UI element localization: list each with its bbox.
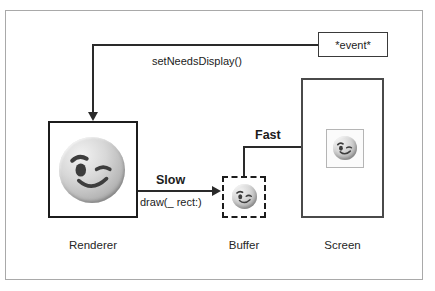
node-event: *event* (318, 32, 388, 57)
edge-renderer-to-buffer-line (138, 190, 214, 192)
edge-renderer-to-buffer-arrowhead (212, 186, 221, 196)
caption-screen: Screen (301, 239, 384, 251)
node-event-label: *event* (335, 39, 370, 51)
winking-face-emoji-buffer (232, 184, 257, 209)
winking-face-emoji-renderer (59, 137, 125, 203)
winking-face-emoji-screen (333, 136, 357, 160)
edge-event-to-renderer-vertical (92, 44, 94, 113)
edge-event-to-renderer-horizontal (92, 44, 318, 46)
caption-buffer: Buffer (214, 239, 274, 251)
edge-event-to-renderer-arrowhead (88, 112, 98, 121)
caption-renderer: Renderer (48, 239, 138, 251)
edge-label-slow: Slow (156, 173, 185, 187)
edge-buffer-to-screen-vertical (243, 146, 245, 176)
edge-label-fast: Fast (255, 128, 281, 142)
edge-label-draw-rect: draw(_ rect:) (140, 196, 202, 208)
diagram-canvas: *event* setNeedsDisplay() Slow draw(_ re… (0, 0, 435, 291)
edge-label-set-needs-display: setNeedsDisplay() (152, 55, 242, 67)
